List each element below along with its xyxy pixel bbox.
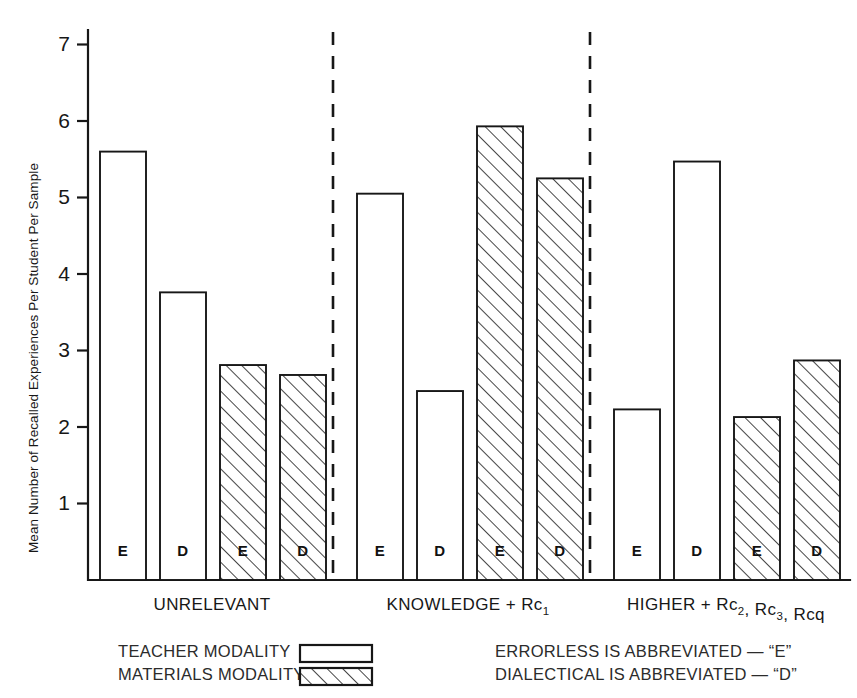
y-tick-label: 5 [58,185,70,208]
legend-label: MATERIALS MODALITY [118,665,305,683]
bar [100,152,146,580]
bar-letter-label: E [495,542,506,559]
group-label: HIGHER + Rc2, Rc3, Rcq [627,595,825,624]
y-axis-title: Mean Number of Recalled Experiences Per … [26,163,41,553]
y-tick-label: 1 [58,491,70,514]
legend-label: TEACHER MODALITY [118,642,291,660]
group-label: KNOWLEDGE + Rc1 [386,595,549,617]
abbreviation-note: DIALECTICAL IS ABBREVIATED — “D” [495,665,797,683]
group-label: UNRELEVANT [153,595,270,614]
y-tick-label: 7 [58,32,70,55]
bar [674,162,720,580]
bar-letter-label: D [177,542,188,559]
bar-letter-label: E [375,542,386,559]
y-tick-label: 3 [58,338,70,361]
bar-letter-label: D [554,542,565,559]
bar-letter-label: D [691,542,702,559]
bar [357,194,403,580]
bar-letter-label: E [238,542,249,559]
legend-swatch [300,668,372,685]
abbreviation-notes: ERRORLESS IS ABBREVIATED — “E”DIALECTICA… [495,642,797,683]
y-tick-label: 2 [58,415,70,438]
bar-letter-label: E [118,542,129,559]
chart-canvas: 1234567 EDEDEDEDEDED UNRELEVANTKNOWLEDGE… [0,0,857,698]
bar-letter-label: E [752,542,763,559]
bar-letter-label: D [811,542,822,559]
plot-area: 1234567 EDEDEDEDEDED UNRELEVANTKNOWLEDGE… [58,30,850,624]
bar-letter-label: D [434,542,445,559]
bar-chart-figure: 1234567 EDEDEDEDEDED UNRELEVANTKNOWLEDGE… [0,0,857,698]
y-tick-label: 6 [58,109,70,132]
bar [477,126,523,580]
y-tick-label: 4 [58,262,70,285]
bar-letter-label: D [297,542,308,559]
y-axis-title-text: Mean Number of Recalled Experiences Per … [26,163,41,553]
legend-swatch [300,645,372,662]
legend: TEACHER MODALITYMATERIALS MODALITY [118,642,372,685]
bar [160,292,206,580]
bars: EDEDEDEDEDED [100,126,840,580]
bar-letter-label: E [632,542,643,559]
bar [537,178,583,580]
abbreviation-note: ERRORLESS IS ABBREVIATED — “E” [495,642,792,660]
group-labels: UNRELEVANTKNOWLEDGE + Rc1HIGHER + Rc2, R… [153,595,824,624]
